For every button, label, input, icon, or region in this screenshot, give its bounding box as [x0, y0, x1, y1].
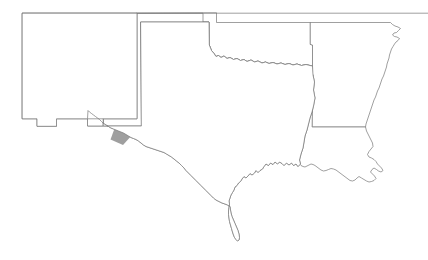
- us-southwest-map: [0, 0, 428, 260]
- state-new-mexico-overlay: [23, 13, 138, 126]
- map-container: [0, 0, 428, 260]
